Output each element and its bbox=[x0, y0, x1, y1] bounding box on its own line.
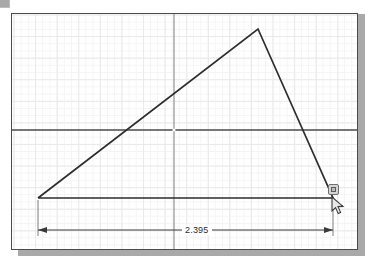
dimension-arrowhead-left bbox=[38, 227, 47, 233]
dimension-value-label[interactable]: 2.395 bbox=[182, 225, 212, 235]
ui-corner-fragment bbox=[0, 0, 10, 8]
dimension-arrowhead-right bbox=[324, 227, 333, 233]
screenshot-stage: 2.395 bbox=[0, 0, 379, 272]
sketch-vector-layer bbox=[12, 14, 357, 249]
sketch-triangle[interactable] bbox=[38, 29, 333, 198]
drawing-sheet[interactable]: 2.395 bbox=[11, 13, 358, 250]
origin-dot bbox=[172, 128, 175, 131]
